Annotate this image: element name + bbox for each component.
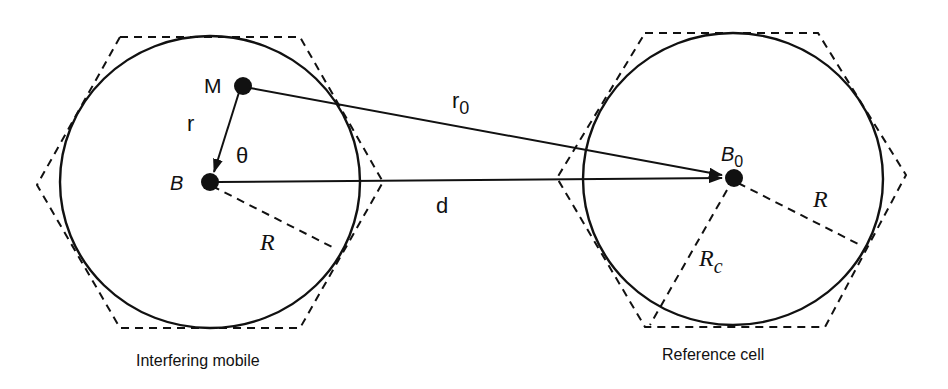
- base-b-label: B: [170, 172, 183, 194]
- angle-theta-label: θ: [236, 143, 248, 168]
- mobile-m-dot: [234, 77, 252, 95]
- right-radius-line: [738, 183, 862, 246]
- reference-base-label: B0: [721, 143, 743, 170]
- left-cell: M r θ B R Interfering mobile: [37, 36, 383, 369]
- mobile-label: M: [204, 74, 222, 97]
- distance-r-label: r: [187, 111, 194, 136]
- r0-label: r0: [452, 88, 469, 118]
- cellular-interference-diagram: M r θ B R Interfering mobile B0 R Rc Ref…: [0, 0, 948, 389]
- mobile-to-reference-arrow: [250, 88, 722, 175]
- reference-base-b0-dot: [725, 169, 743, 187]
- hex-radius-rc-label: Rc: [698, 245, 723, 277]
- base-station-b-dot: [201, 173, 219, 191]
- left-cell-caption: Interfering mobile: [136, 352, 260, 369]
- right-radius-label: R: [812, 186, 828, 212]
- right-cell: B0 R Rc Reference cell: [557, 33, 906, 363]
- left-radius-label: R: [259, 229, 275, 255]
- links: r0 d: [218, 88, 722, 218]
- d-label: d: [436, 193, 448, 218]
- right-cell-caption: Reference cell: [662, 346, 764, 363]
- base-to-base-arrow: [218, 178, 722, 182]
